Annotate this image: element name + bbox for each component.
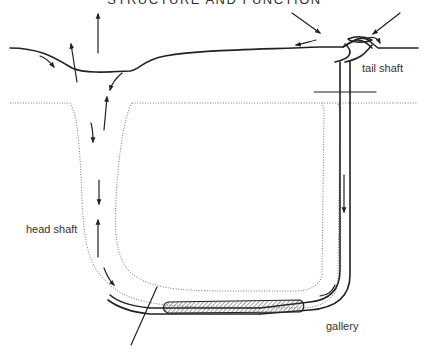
arrow-down-head-1 [91, 123, 93, 142]
arrow-up-left [71, 44, 77, 82]
head-shaft-cross-line [131, 287, 157, 345]
hatched-sediment-plug [164, 300, 304, 313]
label-gallery: gallery [326, 320, 359, 332]
arrow-into-tail-right [373, 13, 400, 34]
arrow-into-head [110, 73, 122, 90]
label-head-shaft: head shaft [26, 223, 77, 235]
tail-shaft-tube [260, 62, 340, 308]
burrow-diagram: tail shaft head shaft gallery [0, 0, 429, 353]
arrow-curve-down [104, 268, 114, 285]
label-tail-shaft: tail shaft [362, 62, 403, 74]
arrow-into-tail-left [292, 13, 320, 33]
arrow-out-tail-left [296, 40, 316, 45]
arrow-up-head-1 [104, 97, 107, 130]
sediment-surface [10, 38, 418, 72]
oxygenated-zone-boundary [10, 103, 340, 308]
